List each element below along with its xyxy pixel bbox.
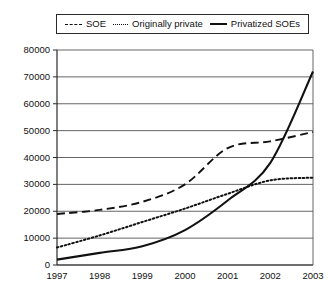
x-axis-tick-label: 2003 (302, 271, 323, 281)
x-axis-tick-label: 1997 (46, 271, 67, 281)
x-axis-tick-labels: 1997199819992000200120022003 (0, 40, 329, 293)
solid-line-icon (210, 23, 227, 25)
chart-plot-area: 0100002000030000400005000060000700008000… (0, 40, 329, 293)
legend-item-originally-private: Originally private (113, 19, 203, 29)
legend-item-privatized-soes: Privatized SOEs (210, 19, 300, 29)
chart-legend: SOE Originally private Privatized SOEs (56, 14, 309, 34)
legend-label-soe: SOE (86, 19, 106, 29)
x-axis-tick-label: 2001 (217, 271, 238, 281)
legend-label-privatized-soes: Privatized SOEs (231, 19, 300, 29)
legend-label-originally-private: Originally private (132, 19, 203, 29)
dashed-line-icon (65, 24, 82, 25)
legend-item-soe: SOE (65, 19, 106, 29)
x-axis-tick-label: 2002 (260, 271, 281, 281)
x-axis-tick-label: 2000 (174, 271, 195, 281)
x-axis-tick-label: 1998 (89, 271, 110, 281)
x-axis-tick-label: 1999 (132, 271, 153, 281)
dotted-line-icon (113, 24, 128, 25)
